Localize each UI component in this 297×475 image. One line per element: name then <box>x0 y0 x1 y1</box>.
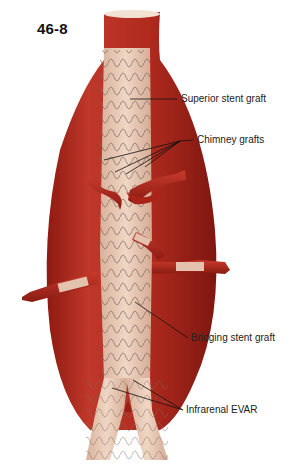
label-bridging-stent-graft: Bridging stent graft <box>191 332 275 343</box>
label-superior-stent-graft: Superior stent graft <box>181 93 266 104</box>
label-chimney-grafts: Chimney grafts <box>197 134 264 145</box>
label-infrarenal-evar: Infrarenal EVAR <box>186 404 258 415</box>
